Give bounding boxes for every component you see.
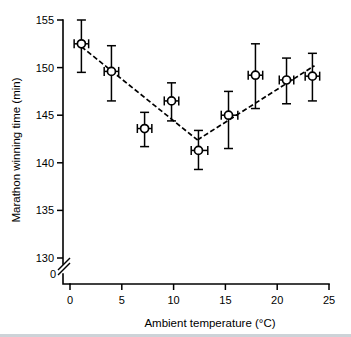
open-circle-marker: [194, 146, 202, 154]
y-tick-label: 130: [36, 252, 54, 264]
x-axis-tick-labels: 0510152025: [67, 294, 335, 306]
x-tick-label: 0: [67, 294, 73, 306]
x-tick-label: 5: [119, 294, 125, 306]
y-axis-title: Marathon winning time (min): [10, 77, 22, 222]
y-tick-label: 145: [36, 109, 54, 121]
x-tick-label: 20: [271, 294, 283, 306]
y-tick-label: 135: [36, 204, 54, 216]
open-circle-marker: [141, 125, 149, 133]
data-point: [221, 91, 238, 148]
x-axis: 0510152025: [67, 284, 335, 306]
y-axis-tick-labels: 130135140145150155: [36, 14, 54, 264]
data-point: [137, 112, 152, 146]
chart-canvas: 130135140145150155 0 0510152025 Ambient …: [0, 0, 351, 337]
x-axis-ticks: [70, 284, 329, 290]
y-axis-ticks: [57, 20, 63, 258]
y-axis: 130135140145150155 0: [36, 14, 70, 284]
data-point: [248, 44, 263, 109]
data-point-series: [74, 20, 320, 169]
y-axis-break-zero-label: 0: [50, 268, 56, 280]
data-point: [104, 46, 119, 101]
data-point: [305, 53, 320, 101]
y-axis-break-icon: [58, 258, 70, 275]
y-axis-lower-stub: [63, 274, 70, 284]
open-circle-marker: [283, 76, 291, 84]
fitted-trend-lines: [81, 47, 314, 140]
data-point: [74, 20, 89, 72]
open-circle-marker: [77, 40, 85, 48]
trend-line-descending-limb: [81, 47, 197, 140]
x-tick-label: 15: [219, 294, 231, 306]
x-tick-label: 10: [167, 294, 179, 306]
marathon-temperature-figure: 130135140145150155 0 0510152025 Ambient …: [0, 0, 351, 337]
y-tick-label: 155: [36, 14, 54, 26]
y-tick-label: 150: [36, 62, 54, 74]
open-circle-marker: [251, 71, 259, 79]
open-circle-marker: [107, 67, 115, 75]
x-axis-title: Ambient temperature (°C): [144, 317, 275, 329]
open-circle-marker: [308, 72, 316, 80]
data-point: [191, 130, 208, 169]
x-tick-label: 25: [323, 294, 335, 306]
y-tick-label: 140: [36, 157, 54, 169]
open-circle-marker: [168, 97, 176, 105]
open-circle-marker: [225, 111, 233, 119]
